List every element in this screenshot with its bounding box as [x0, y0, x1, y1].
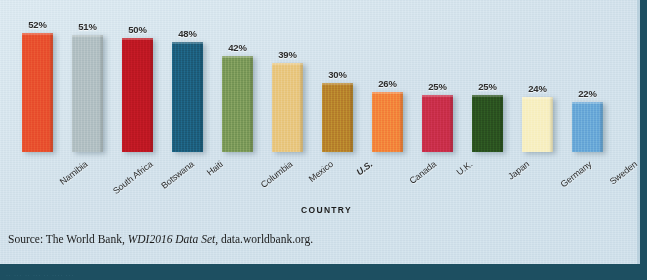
x-tick-label: Sweden	[608, 159, 639, 187]
bar-rect	[372, 92, 403, 152]
bar-top-highlight	[222, 56, 253, 58]
x-tick-label: Mexico	[307, 159, 335, 184]
bar-mexico[interactable]	[272, 63, 303, 152]
bar-rect	[422, 95, 453, 152]
bar-top-highlight	[522, 97, 553, 99]
bar-rect	[522, 97, 553, 152]
bar-value-label: 25%	[465, 81, 510, 92]
x-tick-label: Canada	[408, 159, 439, 186]
bar-chart-plot-area: 52%51%50%48%42%39%30%26%25%25%24%22%	[0, 0, 647, 152]
bar-slot	[215, 0, 265, 152]
bar-top-highlight	[372, 92, 403, 94]
bar-value-label: 25%	[415, 81, 460, 92]
bar-value-label: 24%	[515, 83, 560, 94]
bar-rect	[572, 102, 603, 152]
bar-right-shade	[499, 95, 503, 152]
bar-top-highlight	[272, 63, 303, 65]
bar-slot	[565, 0, 615, 152]
bar-right-shade	[99, 35, 103, 152]
x-tick-label: U.S.	[355, 159, 375, 177]
bar-slot	[115, 0, 165, 152]
right-border-rule	[640, 0, 647, 268]
bar-namibia[interactable]	[22, 33, 53, 152]
bar-u-s[interactable]	[322, 83, 353, 152]
bar-top-highlight	[22, 33, 53, 35]
bar-value-label: 26%	[365, 78, 410, 89]
bar-rect	[72, 35, 103, 152]
source-prefix: Source: The World Bank,	[8, 233, 128, 245]
x-tick-label: Germany	[559, 159, 594, 189]
bar-top-highlight	[322, 83, 353, 85]
bar-value-label: 48%	[165, 28, 210, 39]
bar-botswana[interactable]	[122, 38, 153, 152]
bar-right-shade	[549, 97, 553, 152]
bar-right-shade	[349, 83, 353, 152]
bar-top-highlight	[422, 95, 453, 97]
x-tick-label: Botswana	[159, 159, 196, 191]
bar-value-label: 51%	[65, 21, 110, 32]
x-tick-label: Japan	[506, 159, 531, 182]
bar-right-shade	[299, 63, 303, 152]
chart-figure: 52%51%50%48%42%39%30%26%25%25%24%22% COU…	[0, 0, 647, 280]
bar-slot	[465, 0, 515, 152]
x-tick-label: South Africa	[111, 159, 154, 196]
bar-slot	[515, 0, 565, 152]
bar-right-shade	[199, 42, 203, 152]
bar-right-shade	[249, 56, 253, 152]
bar-right-shade	[449, 95, 453, 152]
source-suffix: , data.worldbank.org.	[215, 233, 313, 245]
bar-right-shade	[49, 33, 53, 152]
bar-value-label: 39%	[265, 49, 310, 60]
bar-germany[interactable]	[522, 97, 553, 152]
x-tick-label: Haiti	[205, 159, 225, 178]
bar-top-highlight	[122, 38, 153, 40]
bar-top-highlight	[72, 35, 103, 37]
bar-rect	[322, 83, 353, 152]
bar-haiti[interactable]	[172, 42, 203, 152]
x-tick-label: U.K.	[455, 159, 475, 177]
x-tick-label: Columbia	[259, 159, 294, 190]
bar-rect	[472, 95, 503, 152]
bottom-color-band: ·· ··· ·· ··· ·· ···· ···	[0, 264, 647, 280]
source-caption: Source: The World Bank, WDI2016 Data Set…	[8, 233, 313, 245]
bar-slot	[415, 0, 465, 152]
source-dataset-name: WDI2016 Data Set	[128, 233, 216, 245]
bar-right-shade	[149, 38, 153, 152]
bar-rect	[172, 42, 203, 152]
bar-rect	[122, 38, 153, 152]
bar-slot	[365, 0, 415, 152]
bar-columbia[interactable]	[222, 56, 253, 152]
bar-sweden[interactable]	[572, 102, 603, 152]
bar-right-shade	[599, 102, 603, 152]
x-axis-title: COUNTRY	[0, 205, 647, 215]
bar-value-label: 22%	[565, 88, 610, 99]
bar-south-africa[interactable]	[72, 35, 103, 152]
bar-rect	[222, 56, 253, 152]
bar-value-label: 30%	[315, 69, 360, 80]
bar-top-highlight	[572, 102, 603, 104]
bar-right-shade	[399, 92, 403, 152]
bar-top-highlight	[172, 42, 203, 44]
bar-japan[interactable]	[472, 95, 503, 152]
bottom-band-text: ·· ··· ·· ··· ·· ···· ···	[6, 272, 74, 280]
bar-top-highlight	[472, 95, 503, 97]
bar-slot	[265, 0, 315, 152]
bar-slot	[165, 0, 215, 152]
bar-value-label: 42%	[215, 42, 260, 53]
bar-u-k[interactable]	[422, 95, 453, 152]
bar-rect	[272, 63, 303, 152]
x-axis-title-text: COUNTRY	[301, 205, 352, 215]
bar-rect	[22, 33, 53, 152]
bar-value-label: 50%	[115, 24, 160, 35]
x-tick-label: Namibia	[58, 159, 90, 187]
bar-value-label: 52%	[15, 19, 60, 30]
bar-canada[interactable]	[372, 92, 403, 152]
